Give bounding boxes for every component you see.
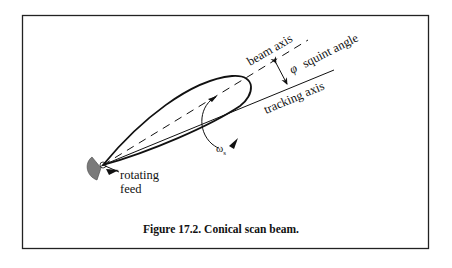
squint-angle-arrow xyxy=(276,63,287,84)
figure-caption: Figure 17.2. Conical scan beam. xyxy=(143,223,299,236)
figure-frame xyxy=(23,16,429,249)
omega-label: ωs xyxy=(216,142,226,157)
feed-pointer-arrow-icon xyxy=(106,169,119,175)
omega-arrow-icon xyxy=(229,138,238,149)
rotating-label: rotating xyxy=(120,168,160,182)
feed-dish-icon xyxy=(87,157,101,180)
tracking-axis-label: tracking axis xyxy=(262,79,327,117)
conical-scan-figure: ωs beam axis φ squint angle tracking axi… xyxy=(0,0,452,268)
squint-phi-symbol: φ xyxy=(287,61,300,77)
feed-label: feed xyxy=(120,182,142,196)
squint-angle-label: squint angle xyxy=(300,30,361,70)
